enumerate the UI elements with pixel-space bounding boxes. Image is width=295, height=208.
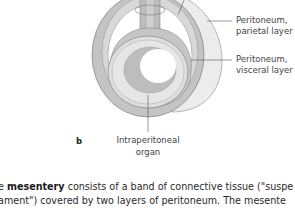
peritoneum-diagram: Peritoneum, parietal layer Peritoneum, v… — [0, 0, 295, 170]
label-visceral-layer: Peritoneum, visceral layer — [236, 54, 293, 76]
label-visceral-line2: visceral layer — [236, 65, 293, 76]
label-parietal-layer: Peritoneum, parietal layer — [236, 15, 293, 37]
body-paragraph: e mesentery consists of a band of connec… — [0, 180, 295, 207]
body-line-1: e mesentery consists of a band of connec… — [0, 180, 295, 194]
label-parietal-line2: parietal layer — [236, 26, 293, 37]
body-line-2: ament") covered by two layers of periton… — [0, 194, 295, 208]
body-line-1-rest: consists of a band of connective tissue … — [65, 181, 294, 192]
term-mesentery: mesentery — [7, 181, 65, 192]
label-organ-line2: organ — [112, 146, 184, 158]
label-organ-line1: Intraperitoneal — [112, 134, 184, 146]
label-intraperitoneal-organ: Intraperitoneal organ — [112, 134, 184, 158]
label-parietal-line1: Peritoneum, — [236, 15, 293, 26]
label-visceral-line1: Peritoneum, — [236, 54, 293, 65]
body-line-1-prefix: e — [0, 181, 7, 192]
panel-letter: b — [76, 136, 82, 146]
